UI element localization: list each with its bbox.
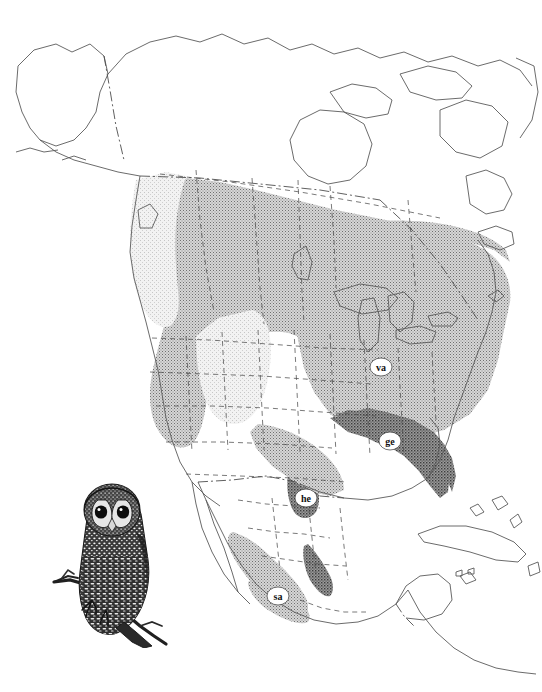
label-va-text: va	[376, 362, 386, 373]
label-he: he	[295, 489, 317, 507]
label-va: va	[370, 358, 392, 376]
range-map-figure: va ge he sa	[0, 0, 542, 692]
label-ge: ge	[379, 432, 401, 450]
label-he-text: he	[301, 493, 312, 504]
label-ge-text: ge	[385, 436, 395, 447]
owl-tail	[116, 622, 152, 648]
spotted-owl-illustration	[48, 472, 178, 648]
label-sa-text: sa	[274, 591, 283, 602]
label-sa: sa	[267, 587, 289, 605]
